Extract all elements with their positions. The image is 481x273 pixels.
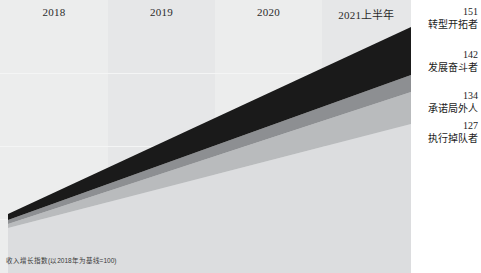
year-label-2018: 2018 (0, 6, 108, 18)
year-label-2020: 2020 (215, 6, 322, 18)
legend-entry-发展奋斗者: 142 发展奋斗者 (428, 49, 478, 74)
legend-entry-执行掉队者: 127 执行掉队者 (428, 120, 478, 145)
axis-note: 收入增长指数(以2018年为基线=100) (6, 255, 116, 265)
year-label-2019: 2019 (108, 6, 215, 18)
chart-figure: 收入增长指数(以2018年为基线=100) 2018 2019 2020 202… (0, 0, 481, 273)
legend-value: 134 (428, 90, 478, 102)
legend-value: 127 (428, 120, 478, 132)
legend-value: 151 (428, 6, 478, 18)
band-series-group (0, 0, 411, 273)
plot-area: 收入增长指数(以2018年为基线=100) (0, 0, 411, 273)
legend-entry-转型开拓者: 151 转型开拓者 (428, 6, 478, 31)
legend-label: 转型开拓者 (428, 18, 478, 31)
legend-value: 142 (428, 49, 478, 61)
legend-label: 发展奋斗者 (428, 61, 478, 74)
legend-label: 承诺局外人 (428, 102, 478, 115)
year-label-2021h1: 2021上半年 (322, 6, 411, 22)
legend-label: 执行掉队者 (428, 132, 478, 145)
legend-entry-承诺局外人: 134 承诺局外人 (428, 90, 478, 115)
legend: 151 转型开拓者 142 发展奋斗者 134 承诺局外人 127 执行掉队者 (411, 0, 481, 273)
